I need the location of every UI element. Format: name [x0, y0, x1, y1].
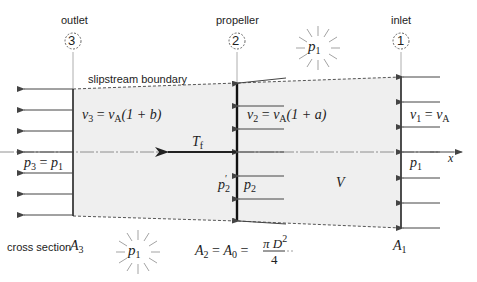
propeller-velocity-equation: v2 = vA(1 + a) — [247, 107, 326, 124]
disk-area-numerator: π D2 — [263, 233, 287, 252]
outlet-station-number: 3 — [68, 33, 75, 48]
propeller-label: propeller — [216, 14, 259, 26]
area-inlet-label: A1 — [393, 238, 407, 255]
propeller-station-number: 2 — [232, 33, 239, 48]
ambient-pressure-top: p1 — [308, 38, 321, 56]
cross-section-label: cross section — [7, 241, 71, 253]
disk-area-equation: A2 = A0 = — [195, 243, 248, 260]
ambient-pressure-bottom: p1 — [128, 242, 141, 260]
outlet-flow-arrows — [24, 89, 73, 215]
outlet-label: outlet — [61, 14, 88, 26]
disk-area-denominator: 4 — [271, 252, 278, 268]
inlet-station-number: 1 — [397, 33, 404, 48]
outlet-pressure-equation: p3 = p1 — [24, 155, 63, 172]
control-volume-label: V — [336, 175, 345, 191]
x-axis-label: x — [448, 151, 453, 166]
inlet-velocity-equation: v1 = vA — [410, 107, 450, 124]
area-outlet-label: A3 — [70, 238, 84, 255]
outlet-velocity-equation: v3 = vA(1 + b) — [82, 107, 161, 124]
slipstream-boundary-label: slipstream boundary — [88, 73, 187, 85]
inlet-flow-arrows — [403, 77, 440, 228]
inlet-label: inlet — [391, 14, 411, 26]
pressure-upstream-disk: p′2 — [218, 177, 230, 194]
inlet-pressure-label: p1 — [410, 155, 422, 172]
thrust-label: Tf — [192, 134, 203, 151]
pressure-downstream-disk: p2 — [244, 177, 256, 194]
